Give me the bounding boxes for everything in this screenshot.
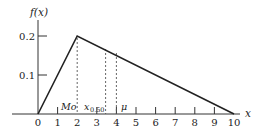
svg-text:9: 9: [211, 117, 217, 128]
svg-text:10: 10: [228, 117, 241, 128]
chart-canvas: 0.2 0.1 f(x) x 0 1 2 3 4 5 6 7 8 9 10 Mo…: [0, 0, 276, 134]
y-tick-label-0.2: 0.2: [19, 31, 35, 42]
svg-text:0: 0: [35, 117, 41, 128]
y-tick-label-0.1: 0.1: [19, 70, 35, 81]
x-ticks: [58, 107, 215, 114]
median-subscript: 0.50: [90, 106, 104, 114]
svg-text:4: 4: [113, 117, 119, 128]
svg-text:2: 2: [74, 117, 80, 128]
svg-text:1: 1: [54, 117, 60, 128]
svg-text:6: 6: [152, 117, 158, 128]
x-tick-labels: 0 1 2 3 4 5 6 7 8 9 10: [35, 117, 241, 128]
mean-label: μ: [121, 101, 127, 112]
y-axis-title: f(x): [29, 6, 48, 18]
mode-label: Mo: [60, 101, 77, 112]
svg-text:8: 8: [192, 117, 198, 128]
svg-text:3: 3: [94, 117, 100, 128]
svg-text:7: 7: [172, 117, 178, 128]
x-axis-title: x: [245, 107, 251, 119]
svg-text:5: 5: [133, 117, 139, 128]
